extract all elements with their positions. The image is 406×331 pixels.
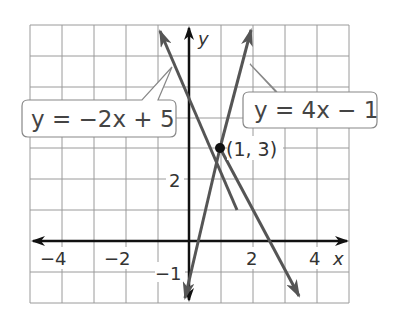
x-tick-label: −4	[40, 248, 67, 269]
y-tick-label: 2	[169, 170, 180, 191]
callout-left: y = −2x + 5	[22, 67, 176, 137]
x-tick-label: 2	[246, 248, 257, 269]
x-axis-label: x	[332, 248, 344, 269]
axes	[33, 28, 347, 300]
x-tick-label: −2	[104, 248, 131, 269]
x-tick-label: 4	[309, 248, 320, 269]
intersection-label: (1, 3)	[226, 138, 277, 160]
callout-right-text: y = 4x − 1	[254, 97, 378, 123]
callout-right: y = 4x − 1	[243, 64, 378, 128]
y-axis-label: y	[197, 28, 209, 49]
y-tick-label: −1	[155, 263, 182, 284]
coordinate-plane: −4 −2 2 4 4 x y 2 −1 (1, 3) y = −2x + 5 …	[0, 0, 406, 331]
line-positive-slope	[220, 30, 251, 148]
intersection-point	[215, 143, 225, 153]
callout-left-text: y = −2x + 5	[31, 106, 175, 132]
